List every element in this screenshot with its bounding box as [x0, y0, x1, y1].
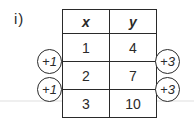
- table-row: 1 4: [63, 34, 157, 62]
- cell-y: 7: [110, 62, 157, 90]
- table-header-row: x y: [63, 10, 157, 34]
- cell-x: 2: [63, 62, 110, 90]
- xy-table: x y 1 4 2 7 3 10: [62, 9, 157, 118]
- cell-y: 10: [110, 90, 157, 118]
- cell-y: 4: [110, 34, 157, 62]
- cell-x: 1: [63, 34, 110, 62]
- question-label: i): [14, 10, 24, 27]
- cell-x: 3: [63, 90, 110, 118]
- x-difference-badge: +1: [37, 77, 62, 102]
- y-difference-badge: +3: [155, 49, 180, 74]
- table-row: 2 7: [63, 62, 157, 90]
- header-y: y: [110, 10, 157, 34]
- table-row: 3 10: [63, 90, 157, 118]
- x-difference-badge: +1: [37, 49, 62, 74]
- y-difference-badge: +3: [155, 77, 180, 102]
- header-x: x: [63, 10, 110, 34]
